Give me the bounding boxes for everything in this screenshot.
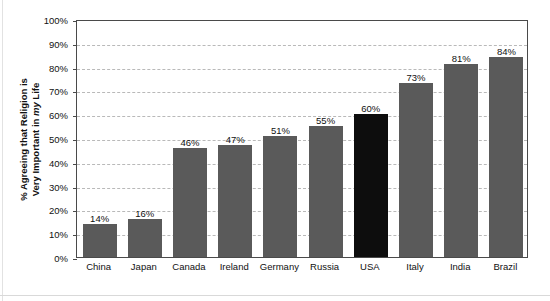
bar-value-label: 73% bbox=[386, 72, 446, 83]
y-axis-tick-label: 70% bbox=[49, 86, 68, 97]
bar bbox=[489, 57, 523, 257]
gridline bbox=[77, 45, 527, 46]
y-axis-tick-mark bbox=[73, 235, 77, 236]
bar-value-label: 16% bbox=[115, 208, 175, 219]
bar-value-label: 51% bbox=[250, 125, 310, 136]
y-axis-title-line1: % Agreeing that Religion is bbox=[18, 78, 29, 201]
y-axis-tick-label: 40% bbox=[49, 157, 68, 168]
bar-value-label: 84% bbox=[476, 46, 536, 57]
page-edge-left bbox=[2, 0, 3, 301]
y-axis-tick-mark bbox=[73, 140, 77, 141]
y-axis-tick-mark bbox=[73, 45, 77, 46]
y-axis-tick-label: 50% bbox=[49, 134, 68, 145]
y-axis-tick-mark bbox=[73, 259, 77, 260]
bar bbox=[128, 219, 162, 257]
y-axis-tick-label: 0% bbox=[54, 253, 68, 264]
bar-value-label: 60% bbox=[341, 103, 401, 114]
bar bbox=[218, 145, 252, 257]
y-axis-tick-label: 20% bbox=[49, 205, 68, 216]
bar bbox=[354, 114, 388, 257]
y-axis-tick-label: 10% bbox=[49, 229, 68, 240]
bar bbox=[83, 224, 117, 257]
y-axis-tick-label: 30% bbox=[49, 181, 68, 192]
x-axis-tick-labels: ChinaJapanCanadaIrelandGermanyRussiaUSAI… bbox=[76, 261, 528, 279]
y-axis-tick-mark bbox=[73, 92, 77, 93]
y-axis-tick-mark bbox=[73, 188, 77, 189]
y-axis-tick-label: 90% bbox=[49, 38, 68, 49]
y-axis-tick-labels: 0%10%20%30%40%50%60%70%80%90%100% bbox=[30, 20, 72, 258]
bar bbox=[309, 126, 343, 257]
bar-chart-figure: % Agreeing that Religion is Very Importa… bbox=[0, 0, 550, 301]
x-axis-tick-label: Brazil bbox=[475, 261, 535, 272]
bar bbox=[173, 148, 207, 257]
y-axis-tick-label: 100% bbox=[44, 15, 68, 26]
y-axis-tick-mark bbox=[73, 116, 77, 117]
bar bbox=[444, 64, 478, 257]
y-axis-tick-mark bbox=[73, 164, 77, 165]
bar bbox=[263, 136, 297, 257]
y-axis-tick-label: 80% bbox=[49, 62, 68, 73]
y-axis-tick-mark bbox=[73, 69, 77, 70]
plot-area: 14%16%46%47%51%55%60%73%81%84% bbox=[76, 20, 528, 258]
y-axis-tick-label: 60% bbox=[49, 110, 68, 121]
page-edge-bottom bbox=[0, 295, 550, 296]
y-axis-tick-mark bbox=[73, 21, 77, 22]
bar bbox=[399, 83, 433, 257]
bar-value-label: 47% bbox=[205, 134, 265, 145]
bar-value-label: 55% bbox=[296, 115, 356, 126]
